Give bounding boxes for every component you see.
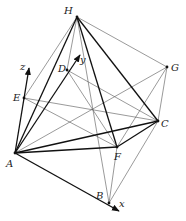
label-A: A <box>5 158 13 169</box>
cube-diagram: H G D E C A F B x y z <box>0 0 186 221</box>
label-B: B <box>95 190 103 201</box>
x-axis-arrow <box>15 153 119 211</box>
label-y-axis: y <box>79 54 86 65</box>
label-H: H <box>63 5 73 16</box>
edge-BC <box>109 121 158 203</box>
edge-GC <box>158 67 167 121</box>
vertex-H <box>76 16 79 19</box>
edge-CF <box>117 121 158 147</box>
label-x-axis: x <box>119 198 125 209</box>
edge-GA <box>15 67 167 153</box>
label-C: C <box>161 118 169 129</box>
edge-EF <box>24 98 117 147</box>
label-z-axis: z <box>19 61 26 72</box>
edge-EH <box>24 17 77 98</box>
label-G: G <box>171 62 179 73</box>
edge-FH <box>77 17 117 147</box>
thin-edges <box>15 17 167 203</box>
vertex-E <box>23 97 26 100</box>
vertex-A <box>14 152 17 155</box>
thick-edges <box>15 17 158 153</box>
vertex-B <box>108 202 111 205</box>
label-F: F <box>113 151 122 162</box>
label-E: E <box>12 92 21 103</box>
vertex-G <box>166 66 169 69</box>
vertex-F <box>116 146 119 149</box>
vertex-C <box>157 120 160 123</box>
label-D: D <box>57 63 66 74</box>
z-axis-arrow <box>15 68 29 153</box>
edge-CH <box>77 17 158 121</box>
edge-AH <box>15 17 77 153</box>
